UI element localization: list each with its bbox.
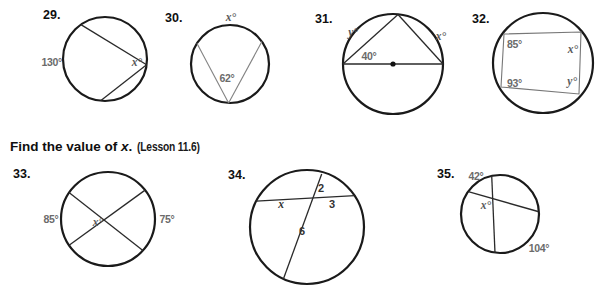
problem-30: 30. x° 62° bbox=[165, 11, 269, 103]
right-arc-label-33: 75° bbox=[160, 213, 175, 225]
arc-label-29: 130° bbox=[41, 56, 62, 68]
problem-34-number: 34. bbox=[228, 168, 245, 182]
top-arc-label-35: 42° bbox=[469, 170, 484, 182]
bottom-right-label-32: y° bbox=[565, 75, 577, 88]
textbook-page: 29. 130° x° 30. x° 62° 31. y° x° 40° bbox=[0, 0, 599, 290]
lesson-reference: (Lesson 11.6) bbox=[137, 140, 200, 154]
vertex-label-29: x° bbox=[131, 56, 143, 68]
left-arc-label-31: y° bbox=[346, 26, 358, 39]
problem-29-number: 29. bbox=[43, 8, 60, 22]
circle-33 bbox=[61, 172, 155, 266]
problem-33-number: 33. bbox=[13, 167, 30, 181]
right-arc-label-31: x° bbox=[435, 30, 447, 42]
problem-31-number: 31. bbox=[315, 12, 332, 26]
heading-suffix: . bbox=[129, 139, 133, 154]
chord-34-horizontal bbox=[256, 196, 355, 201]
problem-31: 31. y° x° 40° bbox=[315, 12, 447, 114]
bottom-left-label-32: 93° bbox=[507, 77, 522, 89]
chord-33-a bbox=[69, 193, 143, 251]
heading-prefix: Find the value of bbox=[10, 139, 121, 154]
chord-33-b bbox=[69, 190, 145, 245]
top-right-label-32: x° bbox=[567, 43, 579, 55]
heading-variable: x bbox=[121, 139, 129, 154]
section-heading: Find the value of x.(Lesson 11.6) bbox=[10, 139, 214, 154]
vertex-label-31: 40° bbox=[362, 50, 377, 62]
right-segment-label-34: 3 bbox=[329, 198, 335, 210]
problem-32-number: 32. bbox=[472, 12, 489, 26]
center-dot-31 bbox=[390, 61, 395, 66]
top-left-label-32: 85° bbox=[507, 38, 522, 50]
vertex-label-33: x° bbox=[92, 216, 104, 228]
circle-34 bbox=[250, 170, 364, 284]
problem-32: 32. 85° x° 93° y° bbox=[472, 12, 593, 113]
bottom-arc-label-35: 104° bbox=[529, 242, 550, 254]
circle-30 bbox=[191, 25, 269, 103]
problem-30-number: 30. bbox=[165, 11, 182, 25]
top-segment-label-34: 2 bbox=[318, 182, 324, 194]
chord-35-vertical bbox=[492, 176, 495, 254]
problem-35-number: 35. bbox=[437, 167, 454, 181]
vertex-label-30: 62° bbox=[220, 72, 235, 84]
left-arc-label-33: 85° bbox=[44, 213, 59, 225]
arc-label-30: x° bbox=[225, 11, 237, 23]
problem-34: 34. 2 x 3 6 bbox=[228, 168, 364, 284]
problem-33: 33. 85° x° 75° bbox=[13, 167, 175, 266]
chord-35-slanted bbox=[468, 192, 538, 212]
left-segment-label-34: x bbox=[277, 198, 284, 210]
circle-35 bbox=[461, 175, 539, 253]
vertex-label-35: x° bbox=[480, 199, 492, 211]
problem-35: 35. 42° x° 104° bbox=[437, 167, 549, 254]
problem-29: 29. 130° x° bbox=[41, 8, 147, 101]
bottom-segment-label-34: 6 bbox=[299, 225, 305, 237]
circle-32 bbox=[493, 13, 593, 113]
